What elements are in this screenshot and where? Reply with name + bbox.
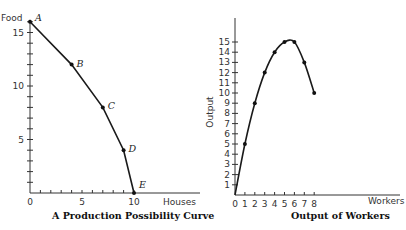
ow-curve xyxy=(235,40,314,195)
x-tick-label: 5 xyxy=(282,199,288,209)
y-tick-label: 11 xyxy=(219,78,230,88)
data-point-a xyxy=(28,20,32,24)
production-possibility-chart: 051051015 ABCDE Food Houses A Production… xyxy=(1,12,214,221)
y-tick-label: 7 xyxy=(224,119,230,129)
data-point xyxy=(243,142,247,146)
point-label: B xyxy=(76,58,84,69)
y-tick-label: 6 xyxy=(224,129,230,139)
ppc-x-axis-label: Houses xyxy=(163,197,196,207)
output-of-workers-chart: 012345678123456789101112131415 Output Wo… xyxy=(205,18,405,221)
ppc-curve xyxy=(30,22,134,193)
y-tick-label: 2 xyxy=(224,170,230,180)
y-tick-label: 15 xyxy=(13,28,24,38)
y-tick-label: 10 xyxy=(219,88,231,98)
data-point xyxy=(263,71,267,75)
point-label: A xyxy=(34,12,42,23)
x-tick-label: 5 xyxy=(79,197,85,207)
data-point-c xyxy=(101,105,105,109)
data-point xyxy=(253,101,257,105)
y-tick-label: 1 xyxy=(224,180,230,190)
data-point xyxy=(292,40,296,44)
x-tick-label: 6 xyxy=(292,199,298,209)
data-point xyxy=(302,60,306,64)
y-tick-label: 3 xyxy=(224,159,230,169)
point-label: D xyxy=(128,143,137,154)
data-point-d xyxy=(122,148,126,152)
point-label: E xyxy=(138,179,146,190)
figure: 051051015 ABCDE Food Houses A Production… xyxy=(0,0,406,230)
data-point-b xyxy=(70,63,74,67)
data-point-e xyxy=(132,191,136,195)
y-tick-label: 13 xyxy=(219,57,230,67)
x-tick-label: 1 xyxy=(242,199,248,209)
y-tick-label: 8 xyxy=(224,108,230,118)
x-tick-label: 0 xyxy=(27,197,33,207)
y-tick-label: 4 xyxy=(224,149,230,159)
ow-y-axis-label: Output xyxy=(205,96,215,128)
data-point xyxy=(283,40,287,44)
x-tick-label: 0 xyxy=(232,199,238,209)
y-tick-label: 10 xyxy=(13,81,25,91)
ow-points xyxy=(243,40,316,146)
x-tick-label: 10 xyxy=(128,197,140,207)
data-point xyxy=(273,50,277,54)
ppc-title: A Production Possibility Curve xyxy=(51,210,214,221)
ow-x-axis-label: Workers xyxy=(368,196,405,206)
point-label: C xyxy=(108,100,116,111)
data-point xyxy=(312,91,316,95)
x-tick-label: 8 xyxy=(311,199,317,209)
y-tick-label: 9 xyxy=(224,98,230,108)
ow-title: Output of Workers xyxy=(291,210,390,221)
y-tick-label: 5 xyxy=(18,135,24,145)
y-tick-label: 12 xyxy=(219,68,230,78)
x-tick-label: 2 xyxy=(252,199,258,209)
x-tick-label: 3 xyxy=(262,199,268,209)
y-tick-label: 5 xyxy=(224,139,230,149)
ow-axes: 012345678123456789101112131415 xyxy=(219,18,400,209)
ppc-y-axis-label: Food xyxy=(1,13,23,23)
y-tick-label: 14 xyxy=(219,47,231,57)
y-tick-label: 15 xyxy=(219,37,230,47)
x-tick-label: 4 xyxy=(272,199,278,209)
x-tick-label: 7 xyxy=(301,199,307,209)
